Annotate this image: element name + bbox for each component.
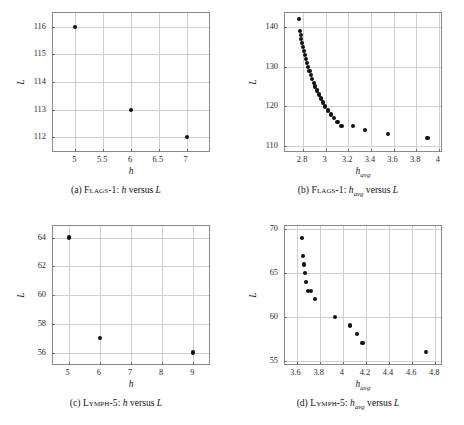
x-tick-label: 6.5 [153,155,163,164]
x-tick-label: 4 [436,155,440,164]
gridline-horizontal [285,273,441,274]
y-tick-label: 113 [34,104,46,113]
gridline-vertical [389,226,390,364]
x-tick-mark [343,362,344,365]
gridline-horizontal [285,27,441,28]
caption-dataset-b: Flags-1 [311,184,343,195]
gridline-vertical [348,13,349,151]
gridline-vertical [326,13,327,151]
plot-area-a [52,12,210,152]
data-point [297,17,301,21]
gridline-horizontal [53,266,209,267]
data-point [309,289,313,293]
gridline-horizontal [285,146,441,147]
x-tick-label: 6 [97,368,101,377]
caption-index-c: (c) [70,397,81,408]
x-tick-mark [439,149,440,152]
panel-b: L havg (b) Flags-1: havg versus L 2.833.… [232,0,464,212]
data-point [185,135,189,139]
plot-area-c [52,225,210,365]
x-tick-mark [187,149,188,152]
y-tick-mark [284,146,287,147]
x-tick-label: 7 [184,155,188,164]
data-point [386,132,390,136]
x-tick-mark [69,362,70,365]
caption-index-b: (b) [298,184,309,195]
caption-rest-c: : h versus L [118,397,163,408]
x-tick-label: 3.2 [342,155,352,164]
y-tick-label: 120 [265,101,278,110]
x-tick-mark [297,362,298,365]
x-tick-label: 6 [128,155,132,164]
data-point [313,297,317,301]
x-tick-label: 3.8 [313,368,323,377]
x-tick-label: 5.5 [97,155,107,164]
data-point [425,136,429,140]
x-axis-title-b: havg [356,166,371,179]
x-tick-mark [412,362,413,365]
gridline-vertical [412,226,413,364]
y-tick-label: 140 [265,21,278,30]
y-tick-mark [284,229,287,230]
x-tick-label: 5 [72,155,76,164]
y-axis-title-c: L [16,292,26,297]
y-tick-label: 110 [266,141,278,150]
gridline-vertical [416,13,417,151]
y-tick-label: 60 [270,311,278,320]
x-tick-mark [131,362,132,365]
gridline-vertical [435,226,436,364]
data-point [129,108,133,112]
x-tick-label: 7 [128,368,132,377]
x-tick-label: 3.4 [365,155,375,164]
data-point [301,254,305,258]
y-tick-label: 64 [38,232,46,241]
y-tick-label: 112 [34,132,46,141]
x-tick-label: 2.8 [297,155,307,164]
x-axis-title-c: h [129,379,134,389]
data-point [333,315,337,319]
y-tick-label: 130 [265,61,278,70]
caption-rest-d: : havg versus L [345,397,399,408]
x-tick-label: 4 [340,368,344,377]
data-point [98,336,102,340]
caption-dataset-a: Flags-1 [84,184,116,195]
caption-dataset-c: Lymph-5 [83,397,118,408]
x-tick-mark [416,149,417,152]
y-tick-mark [52,54,55,55]
gridline-vertical [297,226,298,364]
gridline-vertical [439,13,440,151]
x-tick-mark [193,362,194,365]
y-tick-label: 60 [38,290,46,299]
plot-area-b [284,12,442,152]
gridline-horizontal [53,54,209,55]
data-point [351,124,355,128]
x-tick-label: 4.8 [429,368,439,377]
caption-index-a: (a) [71,184,82,195]
data-point [303,271,307,275]
caption-c: (c) Lymph-5: h versus L [0,397,232,408]
data-point [191,350,195,354]
x-tick-label: 9 [190,368,194,377]
y-tick-mark [52,137,55,138]
x-tick-mark [100,362,101,365]
x-axis-title-d: havg [356,379,371,392]
data-point [424,350,428,354]
y-tick-mark [52,82,55,83]
y-tick-label: 115 [34,49,46,58]
gridline-horizontal [53,82,209,83]
gridline-horizontal [53,295,209,296]
x-tick-mark [75,149,76,152]
gridline-vertical [394,13,395,151]
y-axis-title-a: L [16,79,26,84]
gridline-vertical [320,226,321,364]
y-tick-label: 56 [38,347,46,356]
caption-rest-a: : h versus L [116,184,161,195]
gridline-horizontal [53,324,209,325]
gridline-horizontal [285,106,441,107]
x-tick-label: 8 [159,368,163,377]
x-tick-label: 4.4 [383,368,393,377]
caption-index-d: (d) [297,397,308,408]
y-tick-mark [284,317,287,318]
x-tick-mark [159,149,160,152]
x-tick-label: 3.8 [410,155,420,164]
